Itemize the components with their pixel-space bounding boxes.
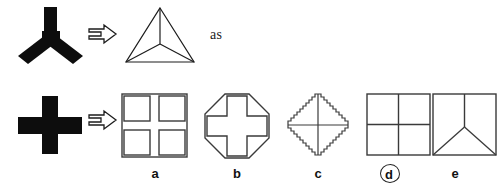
option-label-c: c xyxy=(298,166,338,181)
option-c-jagged-diamond-with-thin-cross[interactable] xyxy=(285,92,351,158)
option-label-e: e xyxy=(435,166,475,181)
option-label-d-text: d xyxy=(385,167,393,182)
implication-arrow-icon-bottom xyxy=(88,110,118,130)
puzzle-canvas: as xyxy=(0,0,500,189)
option-label-a-text: a xyxy=(151,166,158,181)
top-answer-tetrahedron-triangle xyxy=(124,6,196,66)
bottom-prompt-bold-plus-shape xyxy=(16,94,88,158)
top-prompt-bold-y-shape xyxy=(14,4,90,70)
relation-word-as: as xyxy=(210,27,222,43)
option-b-octagon-with-outlined-cross[interactable] xyxy=(203,92,271,160)
option-d-square-divided-into-quadrants[interactable] xyxy=(366,93,432,157)
option-e-square-with-inscribed-y[interactable] xyxy=(432,93,498,157)
option-label-b: b xyxy=(217,166,257,181)
option-label-c-text: c xyxy=(314,166,321,181)
option-label-a: a xyxy=(135,166,175,181)
selected-answer-circle-d: d xyxy=(381,166,397,183)
option-label-e-text: e xyxy=(451,166,458,181)
option-label-d: d xyxy=(359,166,419,183)
implication-arrow-icon-top xyxy=(88,24,118,44)
option-label-b-text: b xyxy=(233,166,241,181)
option-a-square-with-four-subsquares[interactable] xyxy=(121,93,189,159)
